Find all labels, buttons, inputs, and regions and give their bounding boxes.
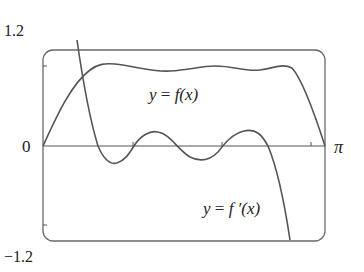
curve-f — [43, 64, 325, 146]
f-prime-annotation: y = f ′(x) — [201, 199, 261, 218]
f-annotation-fn: f(x) — [175, 85, 199, 104]
x-origin-label: 0 — [22, 137, 31, 156]
f-annotation-eq: = — [157, 85, 175, 104]
f-annotation: y = f(x) — [147, 85, 199, 104]
fp-annotation-eq: = — [211, 199, 229, 218]
x-max-label: π — [334, 137, 344, 157]
f-annotation-y: y — [147, 85, 157, 104]
chart: 1.2 −1.2 0 π y = f(x) y = f ′(x) — [0, 0, 364, 272]
fp-annotation-fn: f ′(x) — [229, 199, 261, 218]
fp-annotation-y: y — [201, 199, 211, 218]
y-min-label: −1.2 — [4, 248, 33, 265]
y-max-label: 1.2 — [4, 22, 24, 39]
